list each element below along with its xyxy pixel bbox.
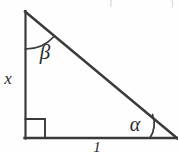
scan-artifact-group <box>111 0 173 7</box>
triangle-figure: x 1 β α <box>0 0 178 153</box>
label-apex-angle-beta: β <box>39 40 51 64</box>
label-vertical-leg: x <box>3 69 12 88</box>
label-base: 1 <box>93 139 101 153</box>
cropped-parenthesis-right-icon <box>170 0 173 7</box>
right-angle-marker-icon <box>26 119 46 138</box>
label-base-angle-alpha: α <box>130 113 141 135</box>
cropped-parenthesis-left-icon <box>111 0 113 7</box>
triangle-diagram-svg: x 1 β α <box>0 0 178 153</box>
